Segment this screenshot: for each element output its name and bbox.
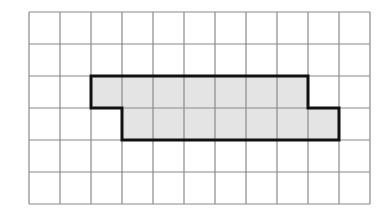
shaded-cell [277, 108, 308, 140]
shaded-cell [215, 108, 246, 140]
shaded-cell [122, 108, 153, 140]
shaded-cell [184, 76, 215, 108]
shaded-cell [153, 108, 184, 140]
shaded-cell [246, 76, 277, 108]
shaded-cell [215, 76, 246, 108]
shaded-cell [184, 108, 215, 140]
shaded-cell [153, 76, 184, 108]
shaded-cell [122, 76, 153, 108]
shaded-cell [277, 76, 308, 108]
shaded-cell [308, 108, 339, 140]
grid-diagram [0, 0, 389, 216]
shaded-cell [246, 108, 277, 140]
shaded-cell [91, 76, 122, 108]
